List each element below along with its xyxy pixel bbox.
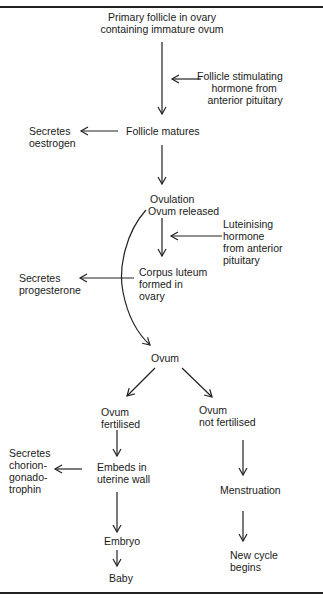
arrow-ovum-to-not-fertilised <box>182 368 212 397</box>
node-ovum-fertilised: Ovum fertilised <box>101 406 140 430</box>
node-fsh: Follicle stimulating hormone from anteri… <box>197 70 283 106</box>
node-baby: Baby <box>109 572 133 584</box>
node-ovulation: Ovulation Ovum released <box>148 193 219 217</box>
node-secretes-oestrogen: Secretes oestrogen <box>29 125 76 149</box>
node-follicle-matures: Follicle matures <box>126 125 200 137</box>
arrow-ovum-to-fertilised <box>127 368 155 396</box>
node-lh: Luteinising hormone from anterior pituit… <box>223 218 283 266</box>
node-secretes-hcg: Secretes chorion- gonado- trophin <box>9 447 50 495</box>
node-corpus-luteum: Corpus luteum formed in ovary <box>139 266 207 302</box>
node-new-cycle: New cycle begins <box>230 549 278 573</box>
node-primary-follicle: Primary follicle in ovary containing imm… <box>100 11 223 35</box>
node-embeds-uterine-wall: Embeds in uterine wall <box>97 461 150 485</box>
node-embryo: Embryo <box>104 535 140 547</box>
node-menstruation: Menstruation <box>220 484 281 496</box>
node-ovum: Ovum <box>151 352 179 364</box>
node-secretes-progesterone: Secretes progesterone <box>19 272 81 296</box>
node-ovum-not-fertilised: Ovum not fertilised <box>199 404 256 428</box>
